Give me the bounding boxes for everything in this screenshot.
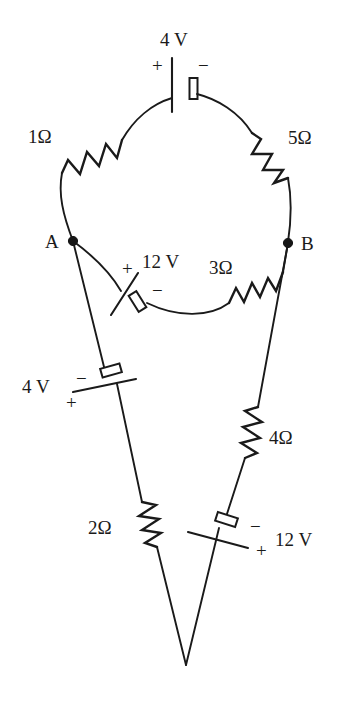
source-top-minus-sign: − bbox=[198, 56, 209, 75]
resistor-1ohm-zigzag bbox=[62, 140, 122, 174]
resistor-3ohm-zigzag bbox=[229, 272, 283, 303]
circuit-schematic-canvas bbox=[0, 0, 341, 704]
wire-a-to-source-lower-left bbox=[73, 241, 106, 375]
wire-b-to-4ohm bbox=[258, 243, 288, 407]
source-top-plus-sign: + bbox=[152, 56, 163, 75]
resistor-2ohm bbox=[139, 502, 161, 547]
resistor-2ohm-label: 2Ω bbox=[88, 518, 112, 537]
node-a-label: A bbox=[45, 232, 59, 251]
resistor-4ohm-label: 4Ω bbox=[269, 428, 293, 447]
wire-a-to-source-middle bbox=[73, 241, 121, 291]
node-dot-b bbox=[283, 238, 292, 247]
resistor-1ohm bbox=[62, 140, 122, 174]
resistor-5ohm-zigzag bbox=[252, 133, 288, 183]
resistor-5ohm bbox=[252, 133, 288, 183]
resistor-3ohm-label: 3Ω bbox=[209, 258, 233, 277]
wire-source-top-minus-to-5ohm bbox=[197, 94, 252, 133]
wire-source-middle-to-3ohm bbox=[147, 303, 229, 314]
circuit-diagram: 4 V + − 1Ω 5Ω A B 12 V + − 3Ω 4 V − + 2Ω… bbox=[0, 0, 341, 704]
source-lower-left-minus-sign: − bbox=[76, 369, 87, 388]
wire-source-lower-left-to-2ohm bbox=[117, 384, 142, 502]
wire-1ohm-to-source-top-plus bbox=[122, 98, 172, 140]
resistor-2ohm-zigzag bbox=[139, 502, 161, 547]
source-top-4v bbox=[172, 58, 198, 112]
wire-4ohm-to-source-lower-right bbox=[226, 458, 245, 517]
source-lower-right-short-plate bbox=[215, 512, 238, 527]
source-middle-value-label: 12 V bbox=[142, 252, 179, 271]
source-top-value-label: 4 V bbox=[160, 30, 188, 49]
source-middle-plus-sign: + bbox=[122, 259, 133, 278]
source-middle-short-plate bbox=[129, 291, 147, 312]
resistor-4ohm-zigzag bbox=[241, 407, 262, 458]
resistor-1ohm-label: 1Ω bbox=[28, 127, 52, 146]
source-middle-12v bbox=[111, 273, 146, 315]
resistor-4ohm bbox=[241, 407, 262, 458]
resistor-5ohm-label: 5Ω bbox=[288, 128, 312, 147]
wire-5ohm-to-b bbox=[288, 178, 291, 242]
source-lower-right-minus-sign: − bbox=[250, 517, 261, 536]
source-middle-minus-sign: − bbox=[152, 281, 163, 300]
node-dot-a bbox=[68, 236, 77, 245]
wire-source-lower-right-to-bottom-vertex bbox=[186, 528, 219, 665]
source-lower-right-value-label: 12 V bbox=[275, 530, 312, 549]
source-lower-left-plus-sign: + bbox=[66, 393, 77, 412]
node-b-label: B bbox=[301, 234, 314, 253]
wire-a-to-1ohm bbox=[61, 173, 73, 241]
resistor-3ohm bbox=[229, 272, 283, 303]
wire-2ohm-to-bottom-vertex bbox=[157, 547, 186, 665]
source-lower-right-plus-sign: + bbox=[256, 541, 267, 560]
source-lower-left-value-label: 4 V bbox=[22, 377, 50, 396]
source-top-short-plate bbox=[190, 78, 198, 99]
